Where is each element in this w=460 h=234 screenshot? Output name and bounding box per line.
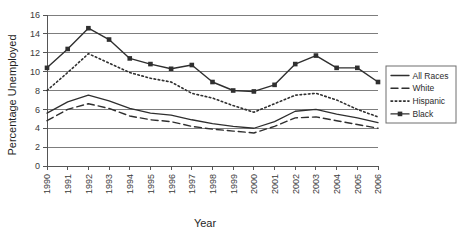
- y-tick-label: 2: [35, 142, 40, 152]
- legend-label-hispanic: Hispanic: [413, 96, 446, 106]
- x-tick-label: 1993: [104, 174, 114, 194]
- x-tick-label: 1995: [146, 174, 156, 194]
- legend-label-all-races: All Races: [413, 71, 449, 81]
- data-point-marker: [86, 26, 91, 31]
- y-tick-label: 16: [30, 10, 40, 20]
- x-tick-label: 1991: [63, 174, 73, 194]
- x-tick-label: 1992: [84, 174, 94, 194]
- x-tick-label: 2002: [291, 174, 301, 194]
- legend-marker: [398, 112, 403, 117]
- x-tick-label: 1998: [208, 174, 218, 194]
- data-point-marker: [127, 56, 132, 61]
- x-tick-label: 2004: [332, 174, 342, 194]
- x-tick-label: 2005: [353, 174, 363, 194]
- data-point-marker: [334, 66, 339, 71]
- y-tick-label: 14: [30, 29, 40, 39]
- data-point-marker: [252, 89, 257, 94]
- gridlines-group: [47, 15, 378, 166]
- data-point-marker: [169, 66, 174, 71]
- y-tick-labels-group: 0246810121416: [30, 10, 40, 171]
- data-point-marker: [231, 88, 236, 93]
- x-tick-label: 1996: [167, 174, 177, 194]
- chart-legend: All RacesWhiteHispanicBlack: [386, 66, 456, 123]
- data-point-marker: [190, 63, 195, 68]
- y-tick-label: 8: [35, 86, 40, 96]
- unemployment-line-chart: 0246810121416 19901991199219931994199519…: [0, 0, 460, 234]
- y-axis-title: Percentage Unemployed: [6, 34, 18, 155]
- x-tick-label: 1997: [187, 174, 197, 194]
- y-tick-label: 12: [30, 48, 40, 58]
- data-point-marker: [107, 37, 112, 42]
- x-tick-label: 1999: [229, 174, 239, 194]
- legend-label-white: White: [413, 83, 435, 93]
- legend-label-black: Black: [413, 109, 435, 119]
- x-tick-label: 1990: [42, 174, 52, 194]
- y-tick-label: 6: [35, 105, 40, 115]
- data-point-marker: [293, 62, 298, 67]
- series-line-all-races: [47, 95, 378, 128]
- data-point-marker: [376, 80, 381, 85]
- data-point-marker: [148, 62, 153, 67]
- x-tick-labels-group: 1990199119921993199419951996199719981999…: [42, 174, 383, 194]
- x-tick-label: 2003: [311, 174, 321, 194]
- x-tick-label: 2000: [249, 174, 259, 194]
- x-tick-label: 2006: [373, 174, 383, 194]
- x-axis-title: Year: [194, 217, 217, 229]
- data-point-marker: [210, 80, 215, 85]
- data-series-group: [45, 26, 381, 133]
- x-tick-label: 1994: [125, 174, 135, 194]
- data-point-marker: [45, 66, 50, 71]
- data-point-marker: [272, 83, 277, 88]
- x-tick-label: 2001: [270, 174, 280, 194]
- data-point-marker: [355, 66, 360, 71]
- y-tick-label: 0: [35, 161, 40, 171]
- data-point-marker: [314, 53, 319, 58]
- y-tick-label: 4: [35, 123, 40, 133]
- data-point-marker: [65, 47, 70, 52]
- y-tick-label: 10: [30, 67, 40, 77]
- chart-canvas: 0246810121416 19901991199219931994199519…: [0, 0, 460, 234]
